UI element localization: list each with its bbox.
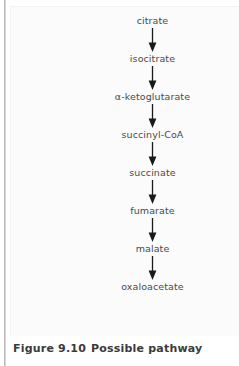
arrow-down-icon [147,141,158,167]
pathway-diagram: citrate isocitrate α-ketoglutarate succi… [11,15,239,293]
arrow-down-icon [147,255,158,281]
arrow-down-icon [147,27,158,53]
page-left-rule [4,0,6,366]
figure-caption: Figure 9.10Possible pathway [13,342,233,355]
pathway-node-succinyl-coa: succinyl-CoA [122,129,184,141]
arrow-down-icon [147,217,158,243]
figure-panel: citrate isocitrate α-ketoglutarate succi… [10,6,239,336]
pathway-node-alpha-ketoglutarate: α-ketoglutarate [115,91,190,103]
pathway-node-citrate: citrate [137,15,169,27]
arrow-down-icon [147,103,158,129]
figure-caption-number: Figure 9.10 [13,342,86,355]
pathway-node-succinate: succinate [129,167,175,179]
pathway-node-oxaloacetate: oxaloacetate [121,281,184,293]
pathway-node-isocitrate: isocitrate [130,53,175,65]
figure-caption-text: Possible pathway [91,342,202,355]
pathway-chain: citrate isocitrate α-ketoglutarate succi… [115,15,190,293]
pathway-node-fumarate: fumarate [130,205,175,217]
arrow-down-icon [147,179,158,205]
arrow-down-icon [147,65,158,91]
pathway-node-malate: malate [136,243,170,255]
